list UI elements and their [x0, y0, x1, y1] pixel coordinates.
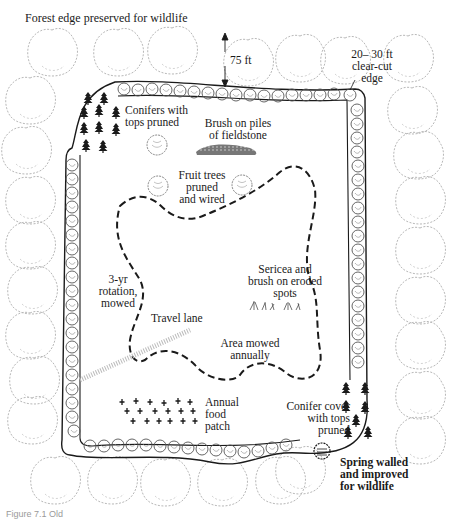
sericea-brush [250, 301, 300, 310]
annual-food-label: Annualfoodpatch [205, 396, 239, 432]
distance-arrow [222, 33, 228, 87]
distance-label: 75 ft [230, 54, 251, 66]
area-mowed-label: Area mowedannually [215, 337, 285, 361]
spring-label: Spring walledand improvedfor wildlife [340, 456, 408, 492]
brush-pile [196, 145, 256, 155]
forest-edge-title: Forest edge preserved for wildlife [25, 12, 188, 24]
spring-icon [314, 443, 330, 459]
figure-caption: Figure 7.1 Old [6, 509, 63, 519]
brush-piles-label: Brush on pilesof fieldstone [193, 117, 283, 141]
fruit-trees-label: Fruit treesprunedand wired [172, 169, 232, 205]
travel-lane [80, 330, 190, 380]
rotation-label: 3-yrrotation,mowed [88, 273, 148, 309]
travel-lane-label: Travel lane [151, 312, 203, 324]
conifer-cover-label: Conifer coverwith topspruned [280, 400, 350, 436]
conifers-top-left [80, 92, 121, 153]
conifers-label: Conifers withtops pruned [125, 104, 188, 128]
sericea-label: Sericea andbrush on erodedspots [235, 263, 335, 299]
forest-edge-trees [2, 26, 446, 506]
clear-cut-label: 20– 30 ftclear-cutedge [337, 48, 407, 84]
food-patch-plants [120, 398, 198, 424]
